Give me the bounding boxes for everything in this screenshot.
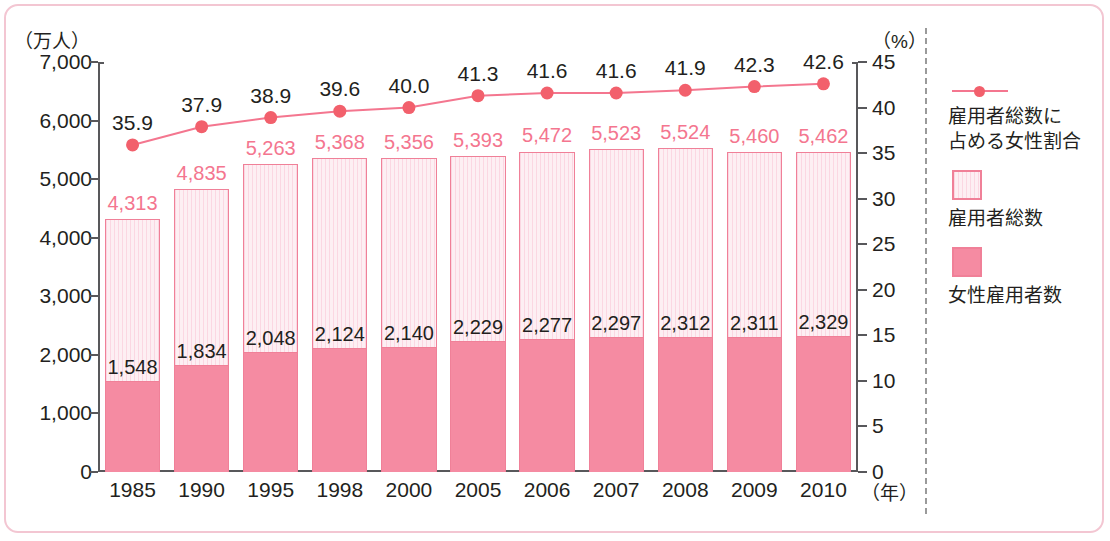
x-axis-tick-label: 2006 bbox=[524, 478, 571, 502]
ratio-data-label: 41.6 bbox=[527, 59, 568, 83]
legend-label-ratio-line2: 占める女性割合 bbox=[948, 129, 1098, 154]
ratio-marker bbox=[402, 101, 415, 114]
left-tick-mark bbox=[89, 471, 98, 473]
right-tick-mark bbox=[858, 243, 867, 245]
x-axis-tick-label: 2007 bbox=[593, 478, 640, 502]
ratio-data-label: 38.9 bbox=[250, 84, 291, 108]
ratio-data-label: 37.9 bbox=[181, 93, 222, 117]
left-axis-caption: （万人） bbox=[14, 26, 90, 53]
x-axis-tick-label: 2000 bbox=[386, 478, 433, 502]
right-axis-tick-label: 10 bbox=[872, 369, 895, 393]
right-tick-mark bbox=[858, 425, 867, 427]
right-axis-tick-label: 40 bbox=[872, 96, 895, 120]
x-axis-tick-label: 1995 bbox=[247, 478, 294, 502]
left-axis-tick-label: 2,000 bbox=[39, 343, 92, 367]
legend-divider bbox=[925, 28, 927, 514]
right-tick-mark bbox=[858, 198, 867, 200]
left-tick-mark bbox=[89, 237, 98, 239]
left-axis-tick-labels: 01,0002,0003,0004,0005,0006,0007,000 bbox=[8, 62, 92, 472]
x-axis-tick-label: 1990 bbox=[178, 478, 225, 502]
left-tick-mark bbox=[89, 354, 98, 356]
right-tick-mark bbox=[858, 152, 867, 154]
chart-figure: （万人） （%） （年） 01,0002,0003,0004,0005,0006… bbox=[0, 0, 1110, 541]
line-marker-icon bbox=[952, 84, 1008, 98]
right-axis-tick-label: 15 bbox=[872, 323, 895, 347]
ratio-data-label: 35.9 bbox=[112, 111, 153, 135]
ratio-marker bbox=[126, 138, 139, 151]
ratio-data-label: 42.3 bbox=[734, 53, 775, 77]
ratio-data-label: 41.9 bbox=[665, 56, 706, 80]
ratio-data-label: 42.6 bbox=[803, 50, 844, 74]
legend-item-total: 雇用者総数 bbox=[948, 170, 1098, 231]
ratio-data-label: 41.3 bbox=[458, 62, 499, 86]
left-axis-tick-label: 7,000 bbox=[39, 50, 92, 74]
left-tick-mark bbox=[89, 61, 98, 63]
right-axis-tick-label: 45 bbox=[872, 50, 895, 74]
ratio-marker bbox=[541, 86, 554, 99]
ratio-marker bbox=[264, 111, 277, 124]
x-axis-tick-label: 2005 bbox=[455, 478, 502, 502]
solid-swatch-icon bbox=[952, 247, 982, 277]
right-axis-tick-label: 30 bbox=[872, 187, 895, 211]
plot-area: 4,3131,5484,8351,8345,2632,0485,3682,124… bbox=[98, 62, 858, 472]
right-tick-mark bbox=[858, 107, 867, 109]
x-axis-tick-label: 2010 bbox=[800, 478, 847, 502]
ratio-marker bbox=[610, 86, 623, 99]
right-tick-mark bbox=[858, 471, 867, 473]
ratio-marker bbox=[472, 89, 485, 102]
left-axis-tick-label: 6,000 bbox=[39, 109, 92, 133]
x-axis-tick-label: 2009 bbox=[731, 478, 778, 502]
ratio-marker bbox=[333, 105, 346, 118]
left-axis-tick-label: 4,000 bbox=[39, 226, 92, 250]
right-axis-tick-label: 5 bbox=[872, 414, 884, 438]
right-tick-mark bbox=[858, 61, 867, 63]
x-axis-unit-label: （年） bbox=[861, 478, 918, 505]
left-tick-mark bbox=[89, 295, 98, 297]
left-tick-mark bbox=[89, 120, 98, 122]
right-axis-tick-label: 35 bbox=[872, 141, 895, 165]
legend-label-female: 女性雇用者数 bbox=[948, 283, 1098, 308]
ratio-data-label: 40.0 bbox=[388, 74, 429, 98]
legend-item-ratio: 雇用者総数に 占める女性割合 bbox=[948, 84, 1098, 154]
x-axis-tick-label: 1998 bbox=[316, 478, 363, 502]
x-axis-tick-label: 2008 bbox=[662, 478, 709, 502]
legend-label-total: 雇用者総数 bbox=[948, 206, 1098, 231]
hatched-swatch-icon bbox=[952, 170, 982, 200]
right-tick-mark bbox=[858, 334, 867, 336]
ratio-data-label: 41.6 bbox=[596, 59, 637, 83]
ratio-marker bbox=[195, 120, 208, 133]
x-axis-tick-labels: 1985199019951998200020052006200720082009… bbox=[98, 478, 858, 508]
x-axis-tick-label: 1985 bbox=[109, 478, 156, 502]
right-axis-tick-label: 25 bbox=[872, 232, 895, 256]
ratio-marker bbox=[748, 80, 761, 93]
left-axis-tick-label: 3,000 bbox=[39, 284, 92, 308]
ratio-marker bbox=[817, 77, 830, 90]
left-tick-mark bbox=[89, 412, 98, 414]
ratio-line-series bbox=[98, 62, 858, 472]
ratio-data-label: 39.6 bbox=[319, 77, 360, 101]
right-axis-caption: （%） bbox=[872, 26, 927, 53]
right-axis-tick-label: 20 bbox=[872, 278, 895, 302]
left-tick-mark bbox=[89, 178, 98, 180]
left-axis-tick-label: 5,000 bbox=[39, 167, 92, 191]
legend-item-female: 女性雇用者数 bbox=[948, 247, 1098, 308]
right-axis-tick-label: 0 bbox=[872, 460, 884, 484]
right-tick-mark bbox=[858, 380, 867, 382]
left-axis-tick-label: 1,000 bbox=[39, 401, 92, 425]
right-axis-tick-labels: 051015202530354045 bbox=[872, 62, 932, 472]
ratio-marker bbox=[679, 84, 692, 97]
right-tick-mark bbox=[858, 289, 867, 291]
legend-label-ratio: 雇用者総数に 占める女性割合 bbox=[948, 104, 1098, 154]
legend: 雇用者総数に 占める女性割合 雇用者総数 女性雇用者数 bbox=[948, 78, 1098, 324]
legend-label-ratio-line1: 雇用者総数に bbox=[948, 104, 1098, 129]
